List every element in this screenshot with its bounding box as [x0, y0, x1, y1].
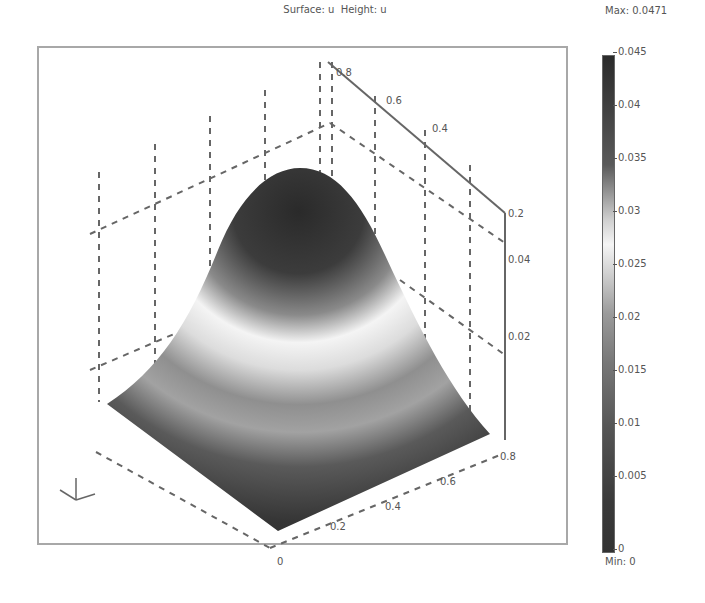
z-tick: 0.04	[508, 254, 530, 265]
colorbar-tick: 0.02	[618, 311, 640, 322]
back-tick: 0.6	[386, 95, 402, 106]
z-tick: 0.02	[508, 331, 530, 342]
axis-triad-icon	[60, 478, 95, 500]
surface	[107, 168, 490, 531]
colorbar-tick: 0.03	[618, 205, 640, 216]
back-tick: 0.8	[336, 67, 352, 78]
colorbar-tick: 0.04	[618, 99, 640, 110]
surface-plot: 0.8 0.6 0.4 0.2 0.04 0.02 0 0.2 0.4 0.6 …	[0, 0, 705, 603]
colorbar-max-label: Max: 0.0471	[605, 5, 667, 16]
x-tick: 0.2	[330, 521, 346, 532]
colorbar-min-label: Min: 0	[605, 556, 636, 567]
colorbar-tick: 0.01	[618, 417, 640, 428]
x-tick: 0.6	[440, 476, 456, 487]
colorbar-tick: 0.045	[618, 46, 647, 57]
colorbar-tick: 0.035	[618, 152, 647, 163]
x-tick: 0	[277, 556, 283, 567]
colorbar	[602, 55, 615, 553]
back-tick: 0.2	[508, 208, 524, 219]
colorbar-tick: 0.005	[618, 470, 647, 481]
colorbar-tick: 0.015	[618, 364, 647, 375]
colorbar-tick: 0	[618, 543, 624, 554]
x-tick: 0.8	[500, 451, 516, 462]
x-tick: 0.4	[385, 501, 401, 512]
colorbar-tick: 0.025	[618, 258, 647, 269]
back-tick: 0.4	[432, 123, 448, 134]
